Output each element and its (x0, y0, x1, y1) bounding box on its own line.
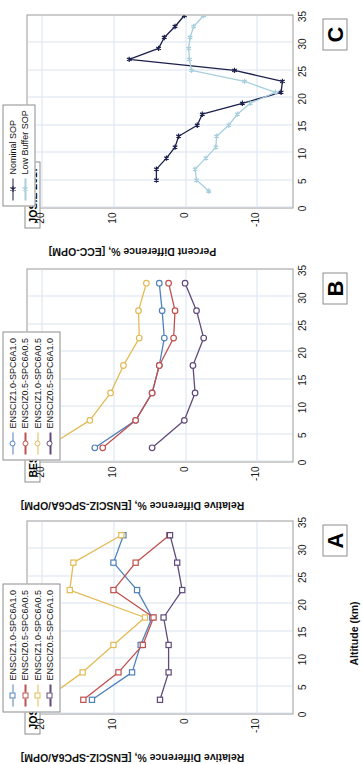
series-marker (154, 177, 159, 182)
x-tick-label: 35 (296, 264, 307, 275)
legend-label: ENSCIZ0.5-SPC6A1.0 (43, 589, 55, 680)
y-tick-label: 20 (35, 718, 46, 744)
x-tick-label: 0 (296, 711, 307, 717)
series-marker (87, 417, 93, 423)
series-marker (179, 587, 184, 592)
plot-area-c (26, 14, 293, 208)
x-tick-label: 0 (296, 205, 307, 211)
series-marker (80, 669, 85, 674)
series-marker (199, 111, 204, 116)
series-marker (192, 166, 197, 171)
legend-label: Nominal SOP (6, 119, 18, 174)
series-marker (193, 307, 199, 313)
legend-color-swatch (33, 684, 42, 706)
legend-item: ENSCIZ0.5-SPC6A0.5 (18, 589, 30, 706)
series-marker (107, 390, 113, 396)
series-marker (157, 697, 162, 702)
legend-color-swatch (20, 432, 29, 454)
series-marker (181, 417, 187, 423)
series-marker (159, 307, 165, 313)
x-tick-label: 5 (296, 432, 307, 438)
y-tick-label: 0 (178, 212, 189, 238)
x-axis-title-a: Altitude (km) (347, 508, 359, 758)
series-marker (110, 642, 115, 647)
panel-letter-a: A (322, 524, 347, 556)
x-tick-label: 15 (296, 120, 307, 131)
series-marker (120, 362, 126, 368)
series-marker (99, 444, 105, 450)
legend-label: ENSCIZ0.5-SPC6A1.0 (43, 337, 55, 428)
legend-color-swatch (20, 684, 29, 706)
series-marker (174, 560, 179, 565)
series-line (188, 15, 275, 191)
x-tick-label: 20 (296, 599, 307, 610)
series-marker (182, 280, 188, 286)
legend-label: Low Buffer SOP (18, 110, 30, 174)
panel-c: JOSIE 2017 C Nominal SOPLow Buffer SOP 3… (0, 2, 363, 252)
plot-area-b (26, 268, 293, 462)
series-marker (80, 697, 85, 702)
series-marker (118, 532, 123, 537)
series-marker (161, 34, 166, 39)
legend-c: Nominal SOPLow Buffer SOP (2, 104, 35, 206)
x-tick-label: 20 (296, 93, 307, 104)
series-marker (201, 14, 206, 18)
panel-b: BESOS 2004 B ENSCIZ1.0-SPC6A1.0ENSCIZ0.5… (0, 256, 363, 506)
series-marker (165, 280, 171, 286)
series-marker (156, 362, 162, 368)
panel-a: JOSIE 2000 A ENSCIZ1.0-SPC6A1.0ENSCIZ0.5… (0, 508, 363, 758)
series-marker (70, 560, 75, 565)
x-tick-label: 25 (296, 319, 307, 330)
series-marker (149, 444, 155, 450)
legend-label: ENSCIZ1.0-SPC6A1.0 (6, 589, 18, 680)
series-marker (192, 390, 198, 396)
series-marker (213, 144, 218, 149)
x-tick-label: 10 (296, 402, 307, 413)
series-marker (176, 133, 181, 138)
legend-color-swatch (8, 178, 17, 200)
legend-label: ENSCIZ1.0-SPC6A0.5 (31, 337, 43, 428)
plot-area-a (26, 520, 293, 714)
series-marker (115, 669, 120, 674)
x-tick-label: 5 (296, 178, 307, 184)
legend-color-swatch (45, 684, 54, 706)
series-marker (156, 280, 162, 286)
series-marker (132, 417, 138, 423)
series-marker (135, 307, 141, 313)
legend-item: ENSCIZ1.0-SPC6A0.5 (31, 589, 43, 706)
x-tick-label: 0 (296, 459, 307, 465)
series-marker (182, 14, 187, 18)
x-tick-label: 35 (296, 10, 307, 21)
series-marker (110, 560, 115, 565)
series-marker (129, 669, 134, 674)
series-marker (189, 67, 194, 72)
y-tick-label: 20 (35, 466, 46, 492)
y-tick-label: 10 (106, 466, 117, 492)
series-layer (27, 269, 292, 461)
legend-label: ENSCIZ0.5-SPC6A0.5 (18, 337, 30, 428)
y-tick-label: 0 (178, 466, 189, 492)
legend-item: ENSCIZ1.0-SPC6A1.0 (6, 337, 18, 454)
x-tick-label: 10 (296, 148, 307, 159)
series-marker (89, 697, 94, 702)
series-marker (172, 23, 177, 28)
x-tick-label: 30 (296, 544, 307, 555)
series-line (94, 283, 163, 448)
series-marker (203, 155, 208, 160)
x-tick-label: 15 (296, 374, 307, 385)
legend-label: ENSCIZ1.0-SPC6A1.0 (6, 337, 18, 428)
x-tick-label: 25 (296, 65, 307, 76)
series-marker (136, 335, 142, 341)
x-tick-label: 10 (296, 654, 307, 665)
legend-color-swatch (45, 432, 54, 454)
y-tick-label: 10 (106, 212, 117, 238)
legend-item: ENSCIZ1.0-SPC6A1.0 (6, 589, 18, 706)
series-marker (126, 56, 131, 61)
x-tick-label: 30 (296, 38, 307, 49)
y-tick-label: 20 (35, 212, 46, 238)
series-marker (150, 614, 155, 619)
series-marker (165, 642, 170, 647)
y-axis-title-b: Relative Difference %, [ENSCIZ-SPC6A/OPM… (20, 499, 243, 511)
